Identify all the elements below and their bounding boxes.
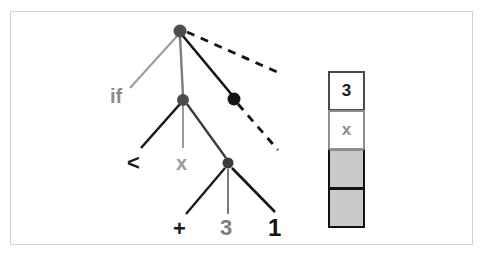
node-label-less-than: < <box>127 152 140 174</box>
tree-node-right <box>228 93 241 106</box>
node-label-x: x <box>176 153 187 173</box>
tree-node-root <box>174 25 187 38</box>
edge-mid-low <box>187 104 226 158</box>
edge-mid-lt <box>141 104 180 148</box>
edge-root-mid <box>180 36 183 96</box>
tree-node-mid <box>177 94 189 106</box>
stack-cell <box>328 149 365 189</box>
node-label-one: 1 <box>268 216 281 240</box>
stack-cell: 3 <box>328 71 365 111</box>
edge-low-plus <box>186 168 225 214</box>
edge-root-dashed-1 <box>187 32 277 72</box>
node-label-if: if <box>110 86 122 106</box>
expression-tree-graphic <box>0 0 488 263</box>
edge-root-right <box>183 36 232 95</box>
edge-root-if <box>130 35 178 88</box>
evaluation-stack: 3 x <box>328 71 365 231</box>
stack-cell: x <box>328 110 365 150</box>
node-label-three: 3 <box>220 217 232 239</box>
tree-node-low <box>223 158 234 169</box>
edge-right-dashed-2 <box>238 104 278 150</box>
node-label-plus: + <box>173 218 186 240</box>
stack-cell <box>328 188 365 228</box>
edge-low-one <box>232 168 275 212</box>
figure-canvas: if < x + 3 1 3 x <box>0 0 488 263</box>
